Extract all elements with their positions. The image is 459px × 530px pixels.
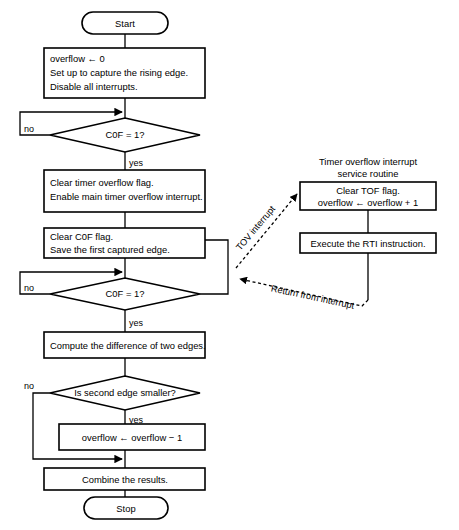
decision-diamond-1: C0F = 1?	[50, 118, 200, 152]
decision-2-no-label: no	[24, 283, 34, 293]
process-box-compute-difference: Compute the difference of two edges.	[44, 332, 206, 358]
decision-diamond-3-label: Is second edge smaller?	[74, 387, 176, 398]
process-box-clear-timer-overflow: Clear timer overflow flag. Enable main t…	[44, 170, 205, 212]
terminator-start: Start	[82, 12, 168, 34]
process-box-clear-c0f-line2: Save the first captured edge.	[50, 244, 170, 255]
process-box-combine-results: Combine the results.	[44, 468, 205, 490]
isr-title-line1: Timer overflow interrupt	[319, 156, 418, 167]
isr-process-box-clear-tof-line2: overflow ← overflow + 1	[318, 197, 418, 208]
isr-process-box-clear-tof-line1: Clear TOF flag.	[336, 185, 400, 196]
isr-process-box-rti: Execute the RTI instruction.	[300, 233, 436, 253]
decision-diamond-2: C0F = 1?	[50, 278, 200, 310]
process-box-init-line2: Set up to capture the rising edge.	[50, 67, 188, 78]
decision-3-no-label: no	[24, 381, 34, 391]
isr-title-line2: service routine	[338, 168, 399, 179]
decision-diamond-3: Is second edge smaller?	[50, 376, 200, 410]
process-box-init-line3: Disable all interrupts.	[50, 81, 138, 92]
edge-label-tov-interrupt: TOV interrupt	[234, 203, 277, 252]
isr-process-box-rti-line1: Execute the RTI instruction.	[311, 238, 426, 249]
decision-1-no-label: no	[24, 124, 34, 134]
process-box-adjust-overflow-line1: overflow ← overflow − 1	[82, 432, 182, 443]
connector-tov-interrupt-dashed	[236, 194, 297, 268]
terminator-stop: Stop	[84, 497, 168, 519]
decision-diamond-2-label: C0F = 1?	[106, 288, 145, 299]
terminator-start-label: Start	[115, 18, 135, 29]
decision-1-yes-label: yes	[129, 158, 144, 168]
process-box-init-line1: overflow ← 0	[50, 53, 105, 64]
process-box-init: overflow ← 0 Set up to capture the risin…	[44, 48, 205, 98]
process-box-compute-difference-line1: Compute the difference of two edges.	[50, 340, 206, 351]
flowchart-diagram: Start overflow ← 0 Set up to capture the…	[0, 0, 459, 530]
isr-process-box-clear-tof: Clear TOF flag. overflow ← overflow + 1	[300, 182, 436, 210]
process-box-clear-timer-overflow-line2: Enable main timer overflow interrupt.	[50, 191, 203, 202]
terminator-stop-label: Stop	[116, 503, 135, 514]
process-box-adjust-overflow: overflow ← overflow − 1	[59, 424, 205, 450]
process-box-clear-timer-overflow-line1: Clear timer overflow flag.	[50, 177, 154, 188]
flowchart-canvas: Start overflow ← 0 Set up to capture the…	[0, 0, 459, 530]
decision-2-yes-label: yes	[129, 318, 144, 328]
decision-diamond-1-label: C0F = 1?	[106, 129, 145, 140]
edge-label-return-from-interrupt: Return from interrupt	[270, 283, 355, 310]
process-box-clear-c0f-line1: Clear C0F flag.	[50, 231, 113, 242]
process-box-clear-c0f: Clear C0F flag. Save the first captured …	[44, 228, 205, 258]
process-box-combine-results-line1: Combine the results.	[82, 474, 168, 485]
